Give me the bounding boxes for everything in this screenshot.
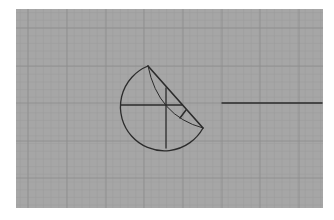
- diagram-canvas: [0, 0, 334, 220]
